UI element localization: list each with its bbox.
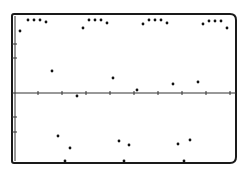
- data-point: [177, 143, 180, 146]
- data-point: [136, 89, 139, 92]
- data-point: [208, 20, 211, 23]
- scatter-plot: [0, 0, 250, 182]
- data-point: [106, 22, 109, 25]
- plot-frame: [12, 14, 236, 163]
- data-point: [39, 19, 42, 22]
- data-point: [94, 19, 97, 22]
- data-point: [51, 70, 54, 73]
- data-point: [128, 144, 131, 147]
- data-point: [160, 19, 163, 22]
- data-point: [226, 27, 229, 30]
- data-point: [64, 160, 67, 163]
- data-point: [202, 23, 205, 26]
- data-point: [214, 20, 217, 23]
- data-point: [172, 83, 175, 86]
- data-point: [197, 81, 200, 84]
- frame-border: [12, 14, 236, 163]
- data-point: [154, 19, 157, 22]
- data-point: [183, 160, 186, 163]
- data-point: [189, 139, 192, 142]
- data-point: [57, 135, 60, 138]
- data-point: [82, 27, 85, 30]
- data-point: [220, 20, 223, 23]
- data-point: [33, 19, 36, 22]
- data-point: [142, 23, 145, 26]
- data-point: [76, 95, 79, 98]
- data-point: [166, 22, 169, 25]
- data-point: [27, 19, 30, 22]
- data-point: [45, 21, 48, 24]
- x-axis: [12, 91, 236, 95]
- data-point: [112, 77, 115, 80]
- data-point: [123, 160, 126, 163]
- data-point: [148, 19, 151, 22]
- data-point: [118, 140, 121, 143]
- data-point: [19, 30, 22, 33]
- data-point: [69, 147, 72, 150]
- data-point: [100, 19, 103, 22]
- data-points: [19, 19, 229, 163]
- data-point: [88, 19, 91, 22]
